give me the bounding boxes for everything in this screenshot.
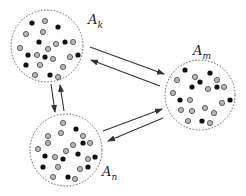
agent-dot-black bbox=[42, 54, 47, 59]
agent-dot-black bbox=[40, 164, 45, 169]
agent-dot-black bbox=[25, 52, 30, 57]
agent-dot-gray bbox=[70, 39, 75, 44]
agent-dot-gray bbox=[192, 74, 197, 79]
label-a-k-main: A bbox=[88, 12, 97, 27]
agent-dot-black bbox=[189, 84, 194, 89]
population-an bbox=[30, 114, 102, 186]
label-a-n-sub: n bbox=[111, 172, 117, 182]
agent-dot-gray bbox=[77, 166, 82, 171]
agent-dot-black bbox=[36, 39, 41, 44]
agent-dot-black bbox=[92, 154, 97, 159]
agent-dot-gray bbox=[55, 74, 60, 79]
agent-dot-gray bbox=[205, 86, 210, 91]
agent-dot-gray bbox=[52, 154, 57, 159]
agent-dot-gray bbox=[174, 77, 179, 82]
label-a-m: Am bbox=[193, 43, 211, 61]
agent-dot-black bbox=[177, 97, 182, 102]
agent-dot-gray bbox=[45, 140, 50, 145]
arrow-am-to-an bbox=[108, 118, 163, 141]
label-a-n: An bbox=[102, 164, 117, 182]
agent-dot-gray bbox=[189, 108, 194, 113]
agent-dot-gray bbox=[35, 146, 40, 151]
agent-dot-gray bbox=[70, 142, 75, 147]
agent-dot-black bbox=[227, 97, 232, 102]
agent-dot-gray bbox=[45, 133, 50, 138]
agent-dot-gray bbox=[80, 133, 85, 138]
agent-dot-black bbox=[214, 84, 219, 89]
agent-dot-gray bbox=[170, 90, 175, 95]
label-a-m-main: A bbox=[193, 43, 202, 58]
agent-dot-gray bbox=[42, 18, 47, 23]
agent-dot-gray bbox=[23, 31, 28, 36]
agent-dot-black bbox=[182, 67, 187, 72]
arrow-am-to-ak bbox=[91, 60, 160, 86]
agent-dot-black bbox=[73, 126, 78, 131]
agent-dot-black bbox=[85, 164, 90, 169]
agent-dot-black bbox=[75, 52, 80, 57]
agent-dot-gray bbox=[185, 118, 190, 123]
agent-dot-gray bbox=[58, 130, 63, 135]
arrow-an-to-am bbox=[103, 109, 162, 131]
agent-dot-gray bbox=[45, 46, 50, 51]
agent-dot-gray bbox=[34, 52, 39, 57]
agent-dot-black bbox=[65, 174, 70, 179]
agent-dot-gray bbox=[63, 148, 68, 153]
arrow-an-to-ak bbox=[60, 85, 64, 111]
agent-dot-gray bbox=[60, 120, 65, 125]
agent-dot-gray bbox=[67, 54, 72, 59]
nodes bbox=[11, 10, 235, 186]
agent-dot-gray bbox=[40, 29, 45, 34]
edges bbox=[51, 47, 164, 141]
agent-dot-gray bbox=[219, 100, 224, 105]
diagram-canvas bbox=[0, 0, 246, 196]
agent-dot-gray bbox=[85, 156, 90, 161]
agent-dot-black bbox=[80, 140, 85, 145]
agent-dot-gray bbox=[72, 176, 77, 181]
agent-dot-gray bbox=[211, 110, 216, 115]
agent-dot-black bbox=[42, 153, 47, 158]
agent-dot-black bbox=[207, 70, 212, 75]
agent-dot-gray bbox=[60, 64, 65, 69]
label-a-k: Ak bbox=[88, 12, 103, 30]
agent-dot-gray bbox=[53, 41, 58, 46]
agent-dot-gray bbox=[87, 140, 92, 145]
agent-dot-gray bbox=[32, 72, 37, 77]
label-a-m-sub: m bbox=[202, 51, 211, 61]
agent-dot-gray bbox=[221, 84, 226, 89]
agent-dot-gray bbox=[17, 45, 22, 50]
agent-dot-gray bbox=[214, 77, 219, 82]
agent-dot-black bbox=[47, 72, 52, 77]
population-am bbox=[165, 60, 235, 130]
agent-dot-gray bbox=[37, 62, 42, 67]
agent-dot-gray bbox=[178, 107, 183, 112]
label-a-n-main: A bbox=[102, 164, 111, 179]
population-exchange-diagram: Ak Am An bbox=[0, 0, 246, 196]
agent-dot-gray bbox=[187, 97, 192, 102]
agent-dot-black bbox=[75, 151, 80, 156]
population-ak bbox=[11, 10, 83, 82]
agent-dot-gray bbox=[207, 120, 212, 125]
agent-dot-black bbox=[62, 39, 67, 44]
agent-dot-gray bbox=[55, 164, 60, 169]
agent-dot-black bbox=[29, 20, 34, 25]
label-a-k-sub: k bbox=[97, 20, 102, 30]
arrow-ak-to-an bbox=[51, 84, 55, 112]
agent-dot-black bbox=[197, 79, 202, 84]
agent-dot-black bbox=[55, 24, 60, 29]
agent-dot-black bbox=[60, 156, 65, 161]
arrow-ak-to-am bbox=[90, 47, 164, 74]
agent-dot-black bbox=[199, 118, 204, 123]
agent-dot-gray bbox=[202, 105, 207, 110]
agent-dot-gray bbox=[50, 174, 55, 179]
agent-dot-gray bbox=[50, 56, 55, 61]
agent-dot-black bbox=[23, 62, 28, 67]
